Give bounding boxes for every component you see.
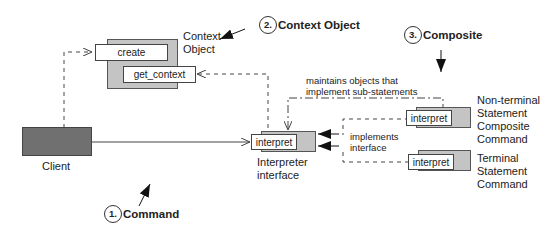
label-line: Command <box>477 178 528 191</box>
client-label: Client <box>42 160 70 173</box>
label-line: maintains objects that <box>306 75 417 86</box>
client-box <box>22 127 92 156</box>
callout-number: 3. <box>404 26 422 44</box>
label-line: Terminal <box>477 152 528 165</box>
label-line: Statement <box>477 165 528 178</box>
nonterminal-label: Non-terminal Statement Composite Command <box>477 94 540 146</box>
callout-label: Command <box>123 208 179 220</box>
label-line: Interpreter <box>257 156 308 169</box>
label-line: Command <box>477 133 540 146</box>
label-line: Composite <box>477 120 540 133</box>
label-line: Non-terminal <box>477 94 540 107</box>
interpret-method: interpret <box>251 134 297 150</box>
label-line: interface <box>350 142 399 153</box>
nonterminal-interpret-method: interpret <box>406 110 452 126</box>
callout-label: Context Object <box>278 19 360 31</box>
create-method: create <box>95 44 168 61</box>
callout-number: 2. <box>259 16 277 34</box>
callout-label: Composite <box>423 29 482 41</box>
label-line: Statement <box>477 107 540 120</box>
callout-number: 1. <box>104 205 122 223</box>
terminal-label: Terminal Statement Command <box>477 152 528 191</box>
maintains-label: maintains objects that implement sub-sta… <box>306 75 417 97</box>
label-line: Context <box>183 30 221 43</box>
label-line: implement sub-statements <box>306 86 417 97</box>
context-object-label: Context Object <box>183 30 221 56</box>
callout-command: 1. Command <box>104 205 179 223</box>
callout-context-object: 2. Context Object <box>259 16 360 34</box>
interpreter-interface-label: Interpreter interface <box>257 156 308 182</box>
callout-composite: 3. Composite <box>404 26 482 44</box>
get-context-method: get_context <box>123 66 196 83</box>
label-line: implements <box>350 131 399 142</box>
label-line: Object <box>183 43 221 56</box>
implements-label: implements interface <box>350 131 399 153</box>
terminal-interpret-method: interpret <box>408 154 454 170</box>
label-line: interface <box>257 169 308 182</box>
